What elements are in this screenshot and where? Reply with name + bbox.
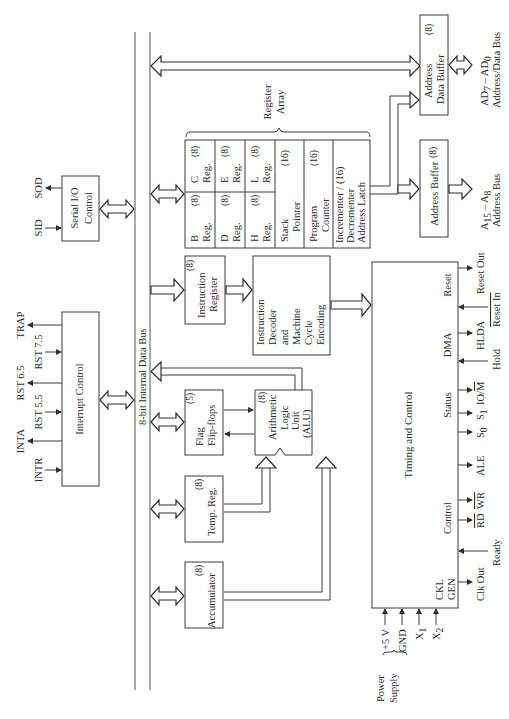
pin-s1: S1 — [475, 409, 489, 420]
pin-vcc: +5 V — [380, 628, 391, 650]
pin-s0: S0 — [475, 427, 489, 438]
svg-text:Program: Program — [308, 206, 319, 242]
svg-text:Counter: Counter — [320, 198, 331, 232]
bidirectional-arrow-icon — [100, 391, 134, 409]
svg-text:(16): (16) — [280, 150, 291, 166]
svg-text:Logic: Logic — [279, 405, 290, 430]
sid-pin: SID — [33, 219, 44, 236]
internal-data-bus: 8-bit Internal Data Bus — [135, 32, 150, 690]
svg-text:C: C — [189, 176, 200, 183]
svg-text:Supply: Supply — [388, 672, 399, 703]
svg-text:and: and — [279, 329, 290, 345]
svg-text:(8): (8) — [250, 146, 261, 157]
svg-text:Address: Address — [423, 64, 434, 98]
sod-pin: SOD — [33, 177, 44, 198]
svg-text:(8): (8) — [194, 479, 205, 490]
svg-text:Reg.: Reg. — [201, 163, 212, 183]
bus-to-ir-arrow-icon — [151, 279, 184, 301]
latch-output-paths — [370, 92, 419, 199]
pin-reset-out: Reset Out — [475, 252, 486, 294]
pin-reset-in: Reset In — [491, 292, 502, 327]
svg-text:Serial I/O: Serial I/O — [69, 187, 80, 229]
svg-text:L: L — [249, 177, 260, 183]
svg-text:Machine: Machine — [291, 308, 302, 345]
svg-text:(8): (8) — [220, 146, 231, 157]
svg-text:(5): (5) — [185, 393, 196, 404]
register-array-brace — [186, 128, 370, 137]
svg-text:(ALU): (ALU) — [301, 409, 313, 438]
pin-clk-out: Clk Out — [475, 567, 486, 601]
svg-text:Flip-flops: Flip-flops — [206, 405, 217, 446]
svg-text:Address Buffer: Address Buffer — [429, 161, 440, 226]
svg-text:Unit: Unit — [290, 411, 301, 430]
svg-text:Reg.: Reg. — [201, 222, 212, 242]
svg-text:(8): (8) — [428, 147, 439, 158]
svg-text:(8): (8) — [194, 565, 205, 576]
svg-text:Interrupt Control: Interrupt Control — [74, 363, 85, 435]
address-buffer: Address Buffer (8) A15 – A8 Address Bus — [420, 140, 502, 237]
pin-rd: RD — [475, 513, 486, 528]
decoder-to-timing-arrow-icon — [331, 294, 371, 316]
pin-ready: Ready — [491, 538, 502, 566]
svg-text:Decoder: Decoder — [267, 309, 278, 345]
pin-inta: INTA — [15, 428, 26, 453]
bidirectional-arrow-icon — [151, 587, 184, 605]
bidirectional-arrow-icon — [151, 413, 184, 431]
svg-text:Decrementer: Decrementer — [345, 188, 356, 243]
svg-text:H: H — [249, 234, 260, 242]
alu: (8) Arithmetic Logic Unit (ALU) — [255, 390, 313, 455]
power-label: Power — [375, 675, 386, 702]
svg-text:(16): (16) — [309, 150, 320, 166]
svg-text:Array: Array — [275, 89, 286, 114]
accumulator: Accumulator (8) — [151, 457, 336, 628]
register-array: B Reg. (8) C Reg. (8) D Reg. (8) E Reg. … — [151, 84, 370, 248]
pin-wr: WR — [475, 492, 486, 509]
svg-text:Encoding: Encoding — [315, 304, 326, 345]
bidirectional-arrow-icon — [100, 200, 134, 218]
internal-bus-label: 8-bit Internal Data Bus — [137, 328, 148, 425]
pin-x2: X2 — [431, 627, 445, 640]
svg-text:Control: Control — [442, 502, 453, 534]
ir-to-decoder-arrow-icon — [226, 279, 252, 301]
svg-text:Register: Register — [208, 277, 219, 312]
pin-intr: INTR — [33, 458, 44, 483]
svg-text:Data Buffer: Data Buffer — [435, 54, 446, 104]
flag-flip-flops: Flag Flip-flops (5) — [151, 390, 254, 455]
svg-text:Reg.: Reg. — [231, 222, 242, 242]
power-supply-inputs: +5 V GND X1 X2 Power Supply — [375, 609, 445, 703]
svg-text:D: D — [219, 234, 230, 242]
pin-hlda: HLDA — [475, 320, 486, 350]
svg-text:(8): (8) — [424, 24, 435, 35]
register-array-label: Register — [262, 84, 273, 119]
timing-and-control: Timing and Control CKL GEN Control Statu… — [372, 252, 502, 608]
address-data-buffer: Address Data Buffer (8) AD7 – AD0 Addres… — [420, 15, 502, 115]
svg-text:E: E — [219, 177, 230, 183]
svg-text:Accumulator: Accumulator — [206, 573, 217, 628]
svg-text:(8): (8) — [190, 195, 201, 206]
pin-rst55: RST 5.5 — [33, 395, 44, 430]
alu-output-path — [151, 362, 302, 390]
pin-rst65: RST 6.5 — [15, 366, 26, 401]
svg-text:Reg.: Reg. — [261, 222, 272, 242]
svg-text:(8): (8) — [185, 260, 196, 271]
svg-text:Reset: Reset — [442, 273, 453, 296]
pin-ale: ALE — [475, 456, 486, 476]
svg-text:Timing and Control: Timing and Control — [402, 392, 414, 479]
svg-text:(8): (8) — [250, 195, 261, 206]
svg-text:B: B — [189, 235, 200, 242]
svg-text:Instruction: Instruction — [255, 299, 266, 345]
svg-text:Cycle: Cycle — [303, 320, 314, 345]
interrupt-control: Interrupt Control INTR INTA RST 5.5 RST … — [15, 311, 134, 486]
svg-text:(8): (8) — [190, 146, 201, 157]
cpu-block-diagram: 8-bit Internal Data Bus Serial I/O Contr… — [0, 0, 509, 719]
svg-text:Address Latch: Address Latch — [356, 181, 367, 243]
svg-text:Flag: Flag — [194, 427, 205, 446]
svg-text:Pointer: Pointer — [291, 201, 302, 232]
instruction-register: Instruction Register (8) — [151, 256, 252, 324]
address-data-bus-label: Address/Data Bus — [491, 32, 502, 108]
bidirectional-arrow-icon — [151, 185, 184, 203]
svg-text:GEN: GEN — [446, 578, 457, 600]
output-arrow-icon — [449, 179, 472, 199]
pin-hold: Hold — [491, 348, 502, 370]
svg-text:Reg.: Reg. — [231, 163, 242, 183]
